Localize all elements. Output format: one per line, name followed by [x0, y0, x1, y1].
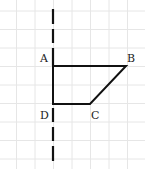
vertex-label-c: C — [91, 109, 99, 122]
geometry-figure: A B C D — [0, 0, 145, 169]
vertex-label-a: A — [39, 52, 49, 65]
vertex-label-d: D — [40, 109, 49, 122]
diagram-canvas: A B C D — [0, 0, 145, 169]
grid — [0, 0, 145, 169]
vertex-label-b: B — [127, 52, 135, 65]
